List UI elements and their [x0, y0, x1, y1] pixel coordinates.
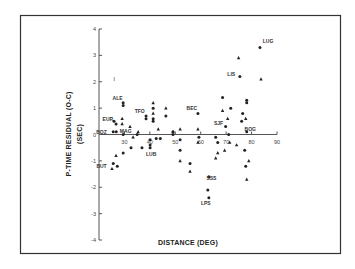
data-point-triangle	[120, 117, 123, 120]
station-label: LUG	[263, 38, 274, 44]
scatter-chart: 43210-1-2-3-430405060708090 LUGLISALETFO…	[0, 0, 355, 269]
data-point-dot	[152, 120, 155, 123]
data-point-triangle	[151, 101, 154, 104]
data-point-triangle	[247, 159, 250, 162]
data-point-dot	[171, 133, 174, 136]
y-tick-label: -3	[91, 211, 96, 217]
data-point-triangle	[114, 154, 117, 157]
data-point-dot	[206, 188, 209, 191]
data-point-triangle	[151, 112, 154, 115]
data-point-triangle	[226, 117, 229, 120]
data-point-dot	[122, 151, 125, 154]
data-point-dot	[214, 136, 217, 139]
station-label: SSS	[206, 175, 217, 181]
data-point-dot	[136, 133, 139, 136]
station-label: LUB	[146, 151, 157, 157]
data-point-dot	[244, 165, 247, 168]
y-axis-unit: (SEC)	[76, 124, 84, 144]
data-point-triangle	[223, 148, 226, 151]
y-tick-label: -4	[91, 237, 96, 243]
data-point-dot	[159, 137, 162, 140]
data-point-dot	[152, 117, 155, 120]
station-labels: LUGLISALETFOEURBOZMAGBUTLUBBECSJFBOGSSSL…	[96, 38, 273, 206]
station-label: TFO	[135, 108, 145, 114]
data-point-triangle	[221, 109, 224, 112]
data-point-dot	[258, 46, 261, 49]
data-point-triangle	[244, 117, 247, 120]
data-point-triangle	[259, 77, 262, 80]
data-point-dot	[238, 75, 241, 78]
data-point-dot	[116, 165, 119, 168]
data-point-dot	[227, 133, 230, 136]
data-point-dot	[149, 144, 152, 147]
data-point-dot	[145, 115, 148, 118]
data-point-dot	[112, 162, 115, 165]
data-point-dot	[115, 122, 118, 125]
data-point-dot	[145, 117, 148, 120]
data-point-triangle	[178, 159, 181, 162]
data-point-dot	[207, 196, 210, 199]
x-tick-label: 50	[172, 139, 178, 145]
data-point-triangle	[237, 56, 240, 59]
data-point-dot	[229, 107, 232, 110]
station-label: BOZ	[96, 129, 107, 135]
station-label: BEC	[187, 105, 198, 111]
y-tick-label: -1	[91, 158, 96, 164]
station-label: EUR	[103, 116, 114, 122]
x-tick-label: 30	[121, 139, 127, 145]
data-point-triangle	[216, 151, 219, 154]
data-point-triangle	[188, 170, 191, 173]
data-point-dot	[155, 137, 158, 140]
data-point-dot	[149, 138, 152, 141]
data-point-dot	[122, 104, 125, 107]
data-point-dot	[196, 112, 199, 115]
station-label: MAG	[120, 128, 132, 134]
data-point-dot	[130, 146, 133, 149]
data-point-dot	[164, 115, 167, 118]
data-point-dot	[140, 146, 143, 149]
data-point-triangle	[178, 127, 181, 130]
data-point-dot	[149, 146, 152, 149]
data-point-dot	[241, 112, 244, 115]
station-label: LIS	[227, 71, 235, 77]
y-tick-label: -2	[91, 184, 96, 190]
data-point-triangle	[131, 135, 134, 138]
y-axis-title: P-TIME RESIDUAL (O-C)	[65, 92, 73, 177]
station-label: LPS	[201, 200, 211, 206]
data-point-triangle	[120, 122, 123, 125]
data-point-triangle	[164, 106, 167, 109]
data-point-triangle	[214, 156, 217, 159]
x-axis-title: DISTANCE (DEG)	[158, 239, 218, 247]
data-point-dot	[179, 138, 182, 141]
data-point-triangle	[235, 143, 238, 146]
data-point-dot	[115, 130, 118, 133]
data-point-dot	[243, 149, 246, 152]
data-point-triangle	[136, 130, 139, 133]
data-point-triangle	[110, 167, 113, 170]
station-label: SJF	[214, 120, 223, 126]
data-point-dot	[216, 141, 219, 144]
data-point-triangle	[245, 177, 248, 180]
station-label: BUT	[96, 163, 106, 169]
data-points	[110, 46, 262, 199]
y-tick-label: 1	[93, 105, 96, 111]
x-tick-label: 90	[274, 139, 280, 145]
station-label: ALE	[113, 95, 124, 101]
data-point-triangle	[157, 127, 160, 130]
data-point-dot	[197, 136, 200, 139]
y-tick-label: 4	[93, 26, 96, 32]
data-point-dot	[240, 120, 243, 123]
data-point-dot	[112, 130, 115, 133]
data-point-dot	[224, 125, 227, 128]
y-tick-label: 3	[93, 52, 96, 58]
data-point-triangle	[196, 127, 199, 130]
data-point-dot	[122, 101, 125, 104]
station-label: BOG	[245, 126, 257, 132]
data-point-dot	[189, 162, 192, 165]
x-tick-label: 80	[249, 139, 255, 145]
data-point-dot	[221, 96, 224, 99]
data-point-dot	[245, 99, 248, 102]
data-point-dot	[152, 107, 155, 110]
data-point-dot	[179, 149, 182, 152]
data-point-dot	[245, 101, 248, 104]
